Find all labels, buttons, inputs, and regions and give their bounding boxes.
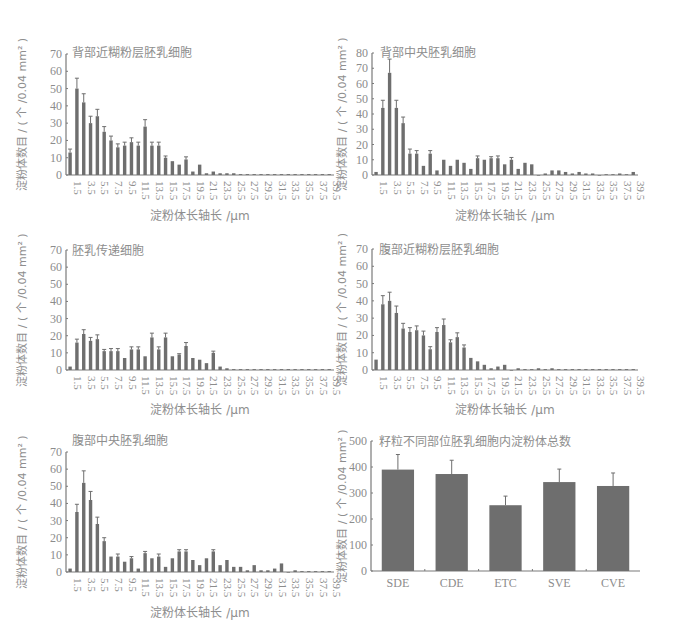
chart-title: 腹部近糊粉层胚乳细胞 [379, 242, 499, 257]
bar [456, 337, 459, 370]
bar [300, 174, 303, 175]
bar [232, 567, 235, 572]
x-tick-label: 19.5 [195, 376, 207, 396]
bar [314, 369, 317, 370]
bar [225, 368, 228, 370]
bar [293, 570, 296, 572]
x-tick-label: 11.5 [446, 376, 458, 395]
x-tick-label: 13.5 [154, 181, 166, 201]
bar [218, 565, 221, 572]
bar [96, 339, 99, 370]
bar [496, 367, 499, 370]
bar [395, 108, 398, 175]
x-tick-label: 19.5 [500, 181, 512, 201]
bar [401, 123, 404, 175]
bar [205, 558, 208, 572]
bar [102, 541, 105, 572]
x-tick-label: 11.5 [140, 376, 152, 395]
x-tick-label: 13.5 [154, 376, 166, 396]
chart-panel-sde: 010203040506070淀粉体数目 / ( 个 /0.04 mm² )背部… [15, 38, 343, 223]
bar [503, 164, 506, 175]
y-tick-label: 40 [356, 107, 368, 121]
y-tick-label: 200 [349, 512, 367, 526]
bar [150, 558, 153, 572]
x-tick-label: 29.5 [568, 181, 580, 201]
bar [171, 558, 174, 572]
y-tick-label: 60 [50, 462, 62, 476]
bar [436, 474, 468, 571]
bar [212, 551, 215, 572]
x-tick-label: 15.5 [473, 376, 485, 396]
bar [273, 369, 276, 370]
bar [408, 332, 411, 370]
bar [75, 89, 78, 175]
y-tick-label: 0 [56, 363, 62, 377]
bar [130, 142, 133, 175]
bar [632, 369, 635, 370]
x-tick-label: 11.5 [140, 181, 152, 200]
bar [184, 159, 187, 175]
x-axis-label: 淀粉体长轴长 /μm [455, 402, 554, 417]
bar [137, 349, 140, 370]
bar [239, 567, 242, 572]
y-tick-label: 0 [56, 565, 62, 579]
y-tick-label: 30 [50, 116, 62, 130]
bar [287, 572, 290, 573]
bar [212, 172, 215, 175]
bar [598, 175, 601, 176]
x-tick-label: 35.5 [608, 376, 620, 396]
bar [287, 369, 290, 370]
bar [253, 369, 256, 370]
x-tick-label: 5.5 [405, 376, 417, 390]
y-tick-label: 10 [356, 346, 368, 360]
bar [116, 557, 119, 572]
y-tick-label: 50 [356, 277, 368, 291]
bar [489, 505, 521, 571]
bar [68, 569, 71, 572]
bar [266, 174, 269, 175]
bar [314, 174, 317, 175]
bar [510, 160, 513, 175]
bar [102, 132, 105, 175]
bar [253, 565, 256, 572]
bar [456, 160, 459, 175]
y-axis-label: 淀粉体数目 / ( 个 /0.04 mm² ) [15, 435, 29, 588]
bar [68, 367, 71, 370]
x-tick-label: 27.5 [249, 578, 261, 598]
x-tick-label: 19.5 [195, 181, 207, 201]
bar [75, 343, 78, 370]
bar [280, 563, 283, 572]
bar [89, 341, 92, 370]
x-tick-label: 31.5 [581, 376, 593, 396]
x-tick-label: 37.5 [318, 578, 330, 598]
bar [82, 483, 85, 572]
bar [476, 361, 479, 370]
y-tick-label: 20 [356, 138, 368, 152]
bar [537, 175, 540, 176]
bar [198, 565, 201, 572]
y-tick-label: 40 [50, 99, 62, 113]
y-tick-label: 10 [50, 151, 62, 165]
bar [157, 557, 160, 572]
bar [598, 369, 601, 370]
chart-panel-total: 0100200300400500淀粉体数目 / ( 个 /0.04 mm² )籽… [335, 429, 640, 590]
y-tick-label: 10 [50, 548, 62, 562]
x-tick-label: 3.5 [86, 376, 98, 390]
x-tick-label: 35.5 [304, 376, 316, 396]
y-tick-label: 0 [361, 564, 367, 578]
x-tick-label: 35.5 [608, 181, 620, 201]
bar [510, 370, 513, 371]
chart-title: 胚乳传递细胞 [72, 243, 144, 258]
bar [557, 369, 560, 370]
bar [239, 369, 242, 370]
x-tick-label: 17.5 [181, 181, 193, 201]
bar [564, 369, 567, 370]
bar [625, 369, 628, 370]
x-tick-label: 23.5 [527, 181, 539, 201]
bar [388, 73, 391, 175]
x-tick-label: 17.5 [486, 376, 498, 396]
bar [388, 301, 391, 370]
bar [564, 172, 567, 175]
bar [415, 154, 418, 175]
bar [462, 348, 465, 370]
